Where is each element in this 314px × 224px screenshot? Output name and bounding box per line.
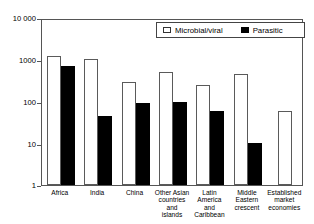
y-tick-label-100: 100	[23, 99, 36, 107]
bar-parasitic	[173, 102, 187, 185]
y-tick-label-10: 10	[28, 141, 36, 149]
y-tick-label-1: 1	[32, 182, 36, 190]
bar-microbial-viral	[47, 56, 61, 185]
legend-item-parasitic: Parasitic	[241, 26, 283, 35]
plot-area	[41, 19, 303, 186]
bar-microbial-viral	[159, 72, 173, 185]
y-tick-label-10000: 10 000	[13, 15, 36, 23]
bar-parasitic	[248, 143, 262, 185]
bar-microbial-viral	[84, 59, 98, 185]
filled-square-icon	[241, 27, 249, 33]
bar-microbial-viral	[196, 85, 210, 185]
open-square-icon	[163, 27, 171, 33]
bar-microbial-viral	[278, 111, 292, 185]
bar-parasitic	[210, 111, 224, 185]
bar-microbial-viral	[122, 82, 136, 185]
bar-chart: 10 000 1000 100 10 1 AfricaIndiaChinaOth…	[0, 0, 314, 224]
legend-item-microbial-viral: Microbial/viral	[163, 26, 223, 35]
legend-label-parasitic: Parasitic	[253, 26, 283, 35]
y-tick-label-1000: 1000	[19, 57, 36, 65]
x-axis-label: Established market economies	[262, 189, 307, 211]
bar-parasitic	[98, 116, 112, 185]
y-axis: 10 000 1000 100 10 1	[0, 0, 41, 224]
y-tick-mark-1	[37, 186, 41, 187]
chart-legend: Microbial/viral Parasitic	[156, 22, 305, 38]
legend-label-microbial-viral: Microbial/viral	[175, 26, 223, 35]
bar-parasitic	[61, 66, 75, 185]
bar-microbial-viral	[234, 74, 248, 185]
bar-parasitic	[136, 103, 150, 185]
